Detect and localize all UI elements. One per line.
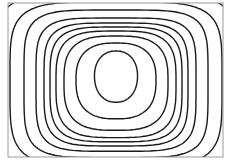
contour-line (64, 36, 168, 130)
contour-line (24, 10, 208, 158)
contour-plot (0, 0, 227, 160)
contour-line (95, 51, 138, 102)
contour-line (50, 27, 182, 142)
contour-line (76, 43, 156, 119)
contour-lines (0, 0, 227, 160)
contour-line (0, 0, 227, 160)
contour-line (0, 0, 227, 160)
